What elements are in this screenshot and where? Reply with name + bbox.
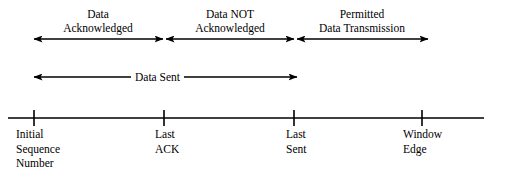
span-label-data-sent: Data Sent [131,70,184,84]
marker-label-line3: Number [16,156,60,171]
marker-label-last-ack: Last ACK [155,127,179,156]
segment-label-line2: Acknowledged [160,21,300,35]
segment-label-line1: Permitted [292,7,432,21]
marker-label-initial-sequence-number: Initial Sequence Number [16,127,60,171]
marker-label-last-sent: Last Sent [286,127,306,156]
marker-label-line2: Sent [286,142,306,157]
segment-label-data-not-acknowledged: Data NOT Acknowledged [160,7,300,35]
marker-label-line2: ACK [155,142,179,157]
tcp-sliding-window-diagram: Data Acknowledged Data NOT Acknowledged … [0,0,506,171]
span-label-text: Data Sent [135,71,180,83]
marker-label-line1: Initial [16,127,60,142]
marker-label-line2: Sequence [16,142,60,157]
marker-label-line1: Last [286,127,306,142]
segment-label-permitted-data-transmission: Permitted Data Transmission [292,7,432,35]
segment-label-line2: Acknowledged [28,21,168,35]
segment-label-line1: Data [28,7,168,21]
segment-label-line1: Data NOT [160,7,300,21]
segment-label-data-acknowledged: Data Acknowledged [28,7,168,35]
segment-label-line2: Data Transmission [292,21,432,35]
marker-label-line2: Edge [403,142,442,157]
marker-label-line1: Window [403,127,442,142]
marker-label-line1: Last [155,127,179,142]
marker-label-window-edge: Window Edge [403,127,442,156]
